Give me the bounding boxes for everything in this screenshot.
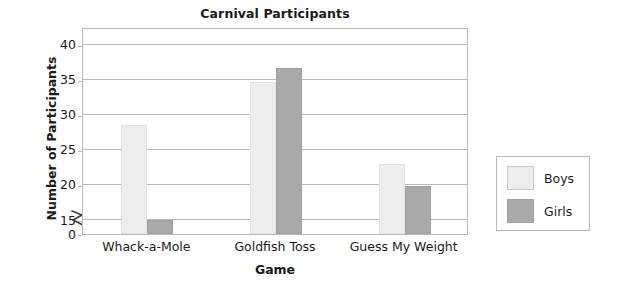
legend-swatch-boys-icon [507, 166, 534, 190]
bar-chart: Carnival Participants Number of Particip… [0, 0, 619, 295]
y-axis-tick-mark [78, 235, 82, 236]
bar-boys-1 [250, 82, 276, 234]
x-axis-title: Game [82, 262, 468, 277]
bar-boys-2 [379, 164, 405, 234]
bar-girls-2 [405, 186, 431, 234]
y-axis-tick-label: 20 [48, 179, 76, 192]
bar-boys-0 [121, 125, 147, 234]
x-axis-tick-label: Guess My Weight [339, 239, 468, 254]
x-axis-tick-label: Goldfish Toss [211, 239, 340, 254]
y-axis-tick-labels: 0152025303540 [44, 28, 76, 235]
legend-label-girls: Girls [544, 204, 572, 219]
y-axis-tick-label: 35 [48, 74, 76, 87]
y-axis-tick-label: 25 [48, 144, 76, 157]
gridline [83, 44, 467, 45]
x-axis-tick-label: Whack-a-Mole [82, 239, 211, 254]
y-axis-tick-label: 40 [48, 39, 76, 52]
chart-title: Carnival Participants [82, 6, 468, 21]
y-axis-tick-label: 30 [48, 109, 76, 122]
plot-area [82, 28, 468, 235]
legend-item-girls: Girls [507, 199, 572, 223]
gridline [83, 79, 467, 80]
legend-label-boys: Boys [544, 171, 574, 186]
legend-item-boys: Boys [507, 166, 574, 190]
legend-swatch-girls-icon [507, 199, 534, 223]
legend: Boys Girls [496, 156, 590, 231]
bar-girls-1 [276, 68, 302, 234]
bar-girls-0 [147, 220, 173, 234]
